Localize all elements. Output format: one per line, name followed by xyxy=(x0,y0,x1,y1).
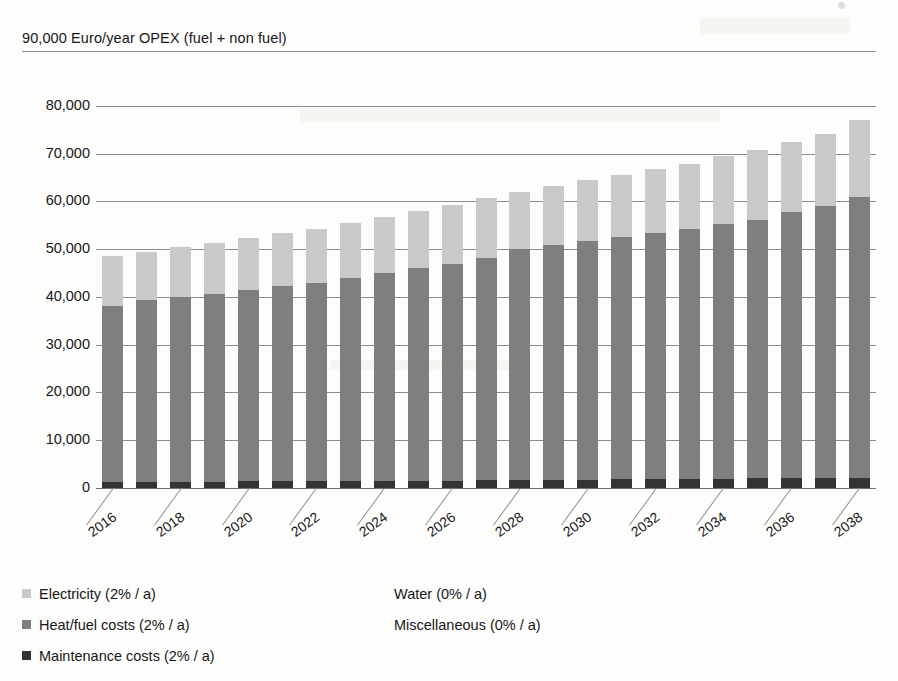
bar-column xyxy=(543,58,564,488)
bar-segment xyxy=(204,243,225,294)
bar-segment xyxy=(679,164,700,229)
bar-column xyxy=(645,58,666,488)
bar-column xyxy=(815,58,836,488)
y-tick-label: 60,000 xyxy=(6,193,90,208)
y-tick-label: 30,000 xyxy=(6,337,90,352)
bar-segment xyxy=(747,478,768,488)
legend-label: Heat/fuel costs (2% / a) xyxy=(39,617,190,633)
bar-segment xyxy=(102,256,123,306)
legend-column-left: Electricity (2% / a)Heat/fuel costs (2% … xyxy=(22,578,215,671)
bar-segment xyxy=(374,481,395,488)
x-tick-label: 2028 xyxy=(480,509,526,548)
bar-column xyxy=(238,58,259,488)
bar-segment xyxy=(170,247,191,297)
bar-segment xyxy=(509,249,530,480)
bar-column xyxy=(577,58,598,488)
chart-page: 90,000 Euro/year OPEX (fuel + non fuel) … xyxy=(0,0,898,681)
legend-item[interactable]: Water (0% / a) xyxy=(377,578,541,609)
bar-segment xyxy=(781,478,802,488)
bar-segment xyxy=(577,180,598,241)
bar-segment xyxy=(781,142,802,212)
bar-segment xyxy=(442,205,463,263)
x-tick-label: 2016 xyxy=(73,509,119,548)
bar-column xyxy=(747,58,768,488)
bar-column xyxy=(781,58,802,488)
bar-segment xyxy=(272,481,293,488)
bar-segment xyxy=(747,220,768,479)
bar-segment xyxy=(815,478,836,488)
bar-column xyxy=(442,58,463,488)
y-tick-label: 50,000 xyxy=(6,241,90,256)
bar-segment xyxy=(238,238,259,290)
bar-segment xyxy=(543,245,564,480)
bar-column xyxy=(170,58,191,488)
bar-column xyxy=(306,58,327,488)
bar-segment xyxy=(374,217,395,273)
bar-segment xyxy=(645,233,666,479)
y-tick-label: 70,000 xyxy=(6,146,90,161)
bar-segment xyxy=(611,479,632,488)
bar-segment xyxy=(849,120,870,196)
bar-segment xyxy=(272,286,293,481)
y-tick-label: 0 xyxy=(6,480,90,495)
legend-item[interactable]: Maintenance costs (2% / a) xyxy=(22,640,215,671)
x-tick-label: 2018 xyxy=(141,509,187,548)
legend-column-right: Water (0% / a)Miscellaneous (0% / a) xyxy=(377,578,541,640)
bar-segment xyxy=(611,175,632,237)
bar-column xyxy=(849,58,870,488)
bar-segment xyxy=(781,212,802,478)
legend-item[interactable]: Electricity (2% / a) xyxy=(22,578,215,609)
bar-segment xyxy=(102,306,123,481)
bar-segment xyxy=(509,192,530,249)
bar-segment xyxy=(408,211,429,268)
bar-column xyxy=(476,58,497,488)
bar-segment xyxy=(849,478,870,488)
bar-segment xyxy=(849,197,870,478)
bar-segment xyxy=(679,479,700,488)
y-axis: 010,00020,00030,00040,00050,00060,00070,… xyxy=(0,58,90,488)
bar-column xyxy=(204,58,225,488)
bar-segment xyxy=(136,300,157,482)
title-underline xyxy=(22,51,876,52)
bar-segment xyxy=(476,480,497,488)
bar-segment xyxy=(442,481,463,488)
bar-segment xyxy=(815,206,836,478)
legend-swatch-icon xyxy=(22,651,31,660)
bar-segment xyxy=(374,273,395,481)
bar-column xyxy=(374,58,395,488)
bar-segment xyxy=(476,258,497,480)
legend-item[interactable]: Miscellaneous (0% / a) xyxy=(377,609,541,640)
bar-column xyxy=(340,58,361,488)
x-tick-label: 2022 xyxy=(276,509,322,548)
legend-swatch-icon xyxy=(377,620,386,629)
bar-segment xyxy=(815,134,836,206)
bar-segment xyxy=(340,223,361,278)
x-tick-label: 2020 xyxy=(209,509,255,548)
bar-segment xyxy=(408,268,429,481)
bar-column xyxy=(713,58,734,488)
x-tick-label: 2024 xyxy=(344,509,390,548)
x-tick-label: 2036 xyxy=(751,509,797,548)
bar-column xyxy=(509,58,530,488)
scan-artifact xyxy=(700,18,850,34)
bar-segment xyxy=(170,297,191,482)
bar-segment xyxy=(713,479,734,488)
legend-swatch-icon xyxy=(22,589,31,598)
legend-item[interactable]: Heat/fuel costs (2% / a) xyxy=(22,609,215,640)
bar-segment xyxy=(442,264,463,481)
bar-segment xyxy=(272,233,293,286)
legend-swatch-icon xyxy=(22,620,31,629)
y-tick-label: 20,000 xyxy=(6,384,90,399)
legend-label: Water (0% / a) xyxy=(394,586,487,602)
bar-segment xyxy=(747,150,768,220)
bar-segment xyxy=(238,290,259,482)
bar-segment xyxy=(577,241,598,480)
x-tick-label: 2030 xyxy=(548,509,594,548)
bar-segment xyxy=(306,283,327,481)
bar-segment xyxy=(679,229,700,479)
bar-segment xyxy=(306,229,327,283)
bar-segment xyxy=(543,186,564,245)
bar-column xyxy=(611,58,632,488)
bar-segment xyxy=(408,481,429,488)
scan-artifact-dot xyxy=(838,2,845,9)
